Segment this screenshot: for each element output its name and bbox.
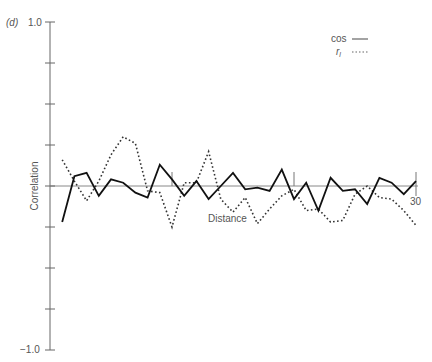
- legend-label-cos: cos: [331, 33, 347, 44]
- x-ticks: [172, 172, 416, 196]
- correlation-chart: (d) 1.0 −1.0 30 Correlation Distance cos…: [0, 0, 432, 362]
- y-tick-label-top: 1.0: [28, 17, 42, 28]
- x-tick-label-end: 30: [410, 196, 422, 207]
- y-tick-label-bottom: −1.0: [20, 344, 40, 355]
- legend: cos rl: [331, 33, 368, 58]
- x-axis-label: Distance: [208, 213, 247, 224]
- y-axis-label: Correlation: [29, 162, 40, 211]
- legend-label-rl: rl: [336, 46, 341, 58]
- panel-label: (d): [6, 17, 18, 28]
